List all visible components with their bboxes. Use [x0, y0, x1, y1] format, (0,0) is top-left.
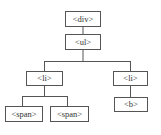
dom-tree-diagram: <div> <ul> <li> <li> <span> <span> <b> [0, 0, 161, 135]
node-li-left: <li> [26, 71, 63, 86]
node-b: <b> [114, 97, 148, 112]
node-span-2: <span> [50, 106, 89, 122]
node-div: <div> [65, 11, 101, 27]
node-span-1: <span> [5, 106, 43, 122]
node-li-right: <li> [113, 71, 148, 86]
node-ul: <ul> [65, 34, 101, 50]
